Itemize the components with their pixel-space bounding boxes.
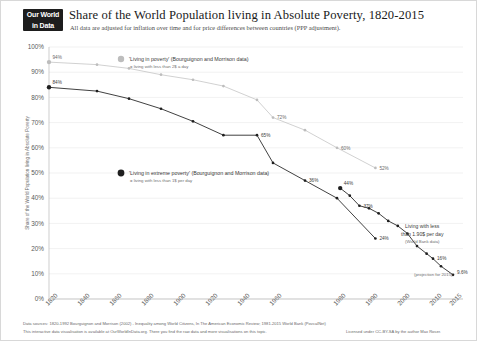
data-point-label: 16% (437, 256, 446, 261)
data-point (358, 204, 361, 207)
data-point-label: 52% (379, 166, 388, 171)
data-point (396, 225, 399, 228)
chart-title: Share of the World Population living in … (69, 8, 424, 23)
y-axis-tick-label: 40% (31, 194, 44, 201)
logo-line-2: in Data (23, 21, 63, 32)
data-point (160, 73, 163, 76)
footer-sources: Data sources: 1820-1992 Bourguignon and … (23, 321, 326, 326)
y-axis-tick-label: 60% (31, 144, 44, 151)
legend-item-extreme-poverty: 'Living in extreme poverty' (Bourguignon… (118, 170, 270, 183)
data-point (192, 120, 195, 123)
legend-item-poverty: 'Living in poverty' (Bourguignon and Mor… (118, 56, 249, 69)
data-point (336, 146, 339, 149)
data-point-label: 44% (344, 181, 353, 186)
y-axis-tick-label: 20% (31, 245, 44, 252)
footer-license: Licensed under CC-BY-SA by the author Ma… (346, 329, 441, 334)
legend-poverty-sub: = living with less than 2$ a day (130, 64, 189, 69)
series-layer (47, 60, 455, 276)
data-point (387, 220, 390, 223)
data-point (256, 134, 259, 137)
y-axis-tick-label: 80% (31, 94, 44, 101)
y-axis-ticks: 0%10%20%30%40%50%60%70%80%90%100% (28, 43, 45, 302)
data-point (425, 252, 428, 255)
data-point (336, 197, 339, 200)
annotation-projection: (projection for 2015) (414, 272, 453, 277)
legend-marker-poverty-icon (118, 56, 124, 62)
data-point (47, 60, 51, 64)
y-axis-tick-label: 70% (31, 119, 44, 126)
y-axis-tick-label: 50% (31, 169, 44, 176)
data-point-label: 36% (309, 178, 318, 183)
chart-card: Our World in Data Share of the World Pop… (0, 0, 477, 341)
data-point (338, 186, 342, 190)
annotation-wb-line1: Living with less (405, 223, 440, 229)
data-point (160, 107, 163, 110)
data-point (192, 78, 195, 81)
chart-footer: Data sources: 1820-1992 Bourguignon and … (1, 319, 477, 341)
y-axis-tick-label: 0% (35, 295, 45, 302)
owid-logo: Our World in Data (23, 9, 63, 31)
data-point-label: 94% (53, 55, 62, 60)
data-point (416, 245, 419, 248)
data-point (47, 85, 51, 89)
data-point (440, 265, 443, 268)
data-point (96, 63, 99, 66)
series-line (49, 62, 375, 168)
data-point (432, 257, 435, 260)
annotation-wb-line3: (World Bank data) (405, 239, 440, 244)
data-point-label: 60% (341, 146, 350, 151)
y-axis-title: Share of the World Population living in … (25, 116, 30, 230)
data-point-label: 37% (363, 204, 372, 209)
data-point (374, 167, 377, 170)
legend-poverty-title: 'Living in poverty' (Bourguignon and Mor… (129, 56, 249, 62)
chart-header: Our World in Data Share of the World Pop… (1, 1, 477, 39)
annotation-world-bank: Living with less than 1.90$ per day (Wor… (401, 223, 444, 244)
data-point-label: 84% (53, 80, 62, 85)
data-point (272, 116, 275, 119)
data-point (304, 179, 307, 182)
legend-extreme-sub: = living with less than 1$ per day (130, 178, 193, 183)
data-point-label: 65% (261, 133, 270, 138)
data-point (128, 97, 131, 100)
data-point (222, 85, 225, 88)
data-point (374, 237, 377, 240)
y-axis-tick-label: 90% (31, 68, 44, 75)
chart-plot-area: 0%10%20%30%40%50%60%70%80%90%100% 182018… (1, 37, 477, 319)
chart-svg: 0%10%20%30%40%50%60%70%80%90%100% 182018… (1, 37, 477, 319)
annotation-wb-line2: than 1.90$ per day (401, 231, 444, 237)
data-point (96, 90, 99, 93)
data-point (377, 212, 380, 215)
y-axis-tick-label: 10% (31, 270, 44, 277)
y-axis-tick-label: 30% (31, 220, 44, 227)
series-line (49, 87, 375, 238)
data-point (304, 129, 307, 132)
chart-subtitle: All data are adjusted for inflation over… (70, 24, 340, 31)
y-axis-tick-label: 100% (28, 43, 45, 50)
data-point-label: 24% (379, 236, 388, 241)
data-point (348, 194, 351, 197)
logo-line-1: Our World (23, 10, 63, 21)
data-point-label: 72% (277, 115, 286, 120)
data-point (272, 162, 275, 165)
data-point (222, 134, 225, 137)
legend-extreme-title: 'Living in extreme poverty' (Bourguignon… (129, 170, 269, 176)
legend-marker-extreme-icon (118, 170, 125, 177)
footer-link[interactable]: This interactive data visualisation is a… (23, 329, 267, 334)
data-point-label: 9.6% (457, 270, 468, 275)
data-point (256, 99, 259, 102)
